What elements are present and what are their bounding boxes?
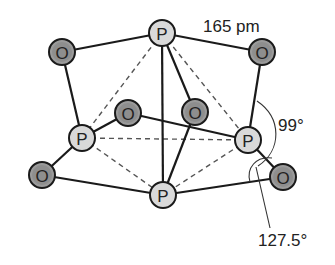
atom-label: O [55,44,68,63]
atom-label: O [35,167,48,186]
atom-p-right: P [235,127,261,153]
atom-p-bottom: P [150,182,176,208]
atom-p-left: P [69,125,95,151]
bond-line [62,33,162,52]
angle-127-label: 127.5° [258,231,307,250]
atom-label: P [157,187,168,206]
atom-p-top: P [149,20,175,46]
atom-label: O [188,104,201,123]
atom-o-br: O [270,164,296,190]
angle-99-label: 99° [278,116,304,135]
tetrahedron-edge [163,140,248,195]
atom-o-tl: O [49,39,75,65]
tetrahedron-dashed-edges [82,33,248,195]
p4o6-diagram: PPPPOOOOOO 165 pm 99° 127.5° [0,0,335,265]
atom-label: P [242,132,253,151]
atom-label: O [121,105,134,124]
bond-lines [42,33,283,195]
tetrahedron-edge [82,138,163,195]
molecule-svg: PPPPOOOOOO 165 pm 99° 127.5° [0,0,335,265]
atom-label: O [276,169,289,188]
atom-o-il: O [115,100,141,126]
atom-o-ir: O [182,99,208,125]
bond-line [162,33,163,195]
bond-line [42,175,163,195]
atom-label: P [76,130,87,149]
atom-label: P [156,25,167,44]
atom-o-bl: O [29,162,55,188]
atom-o-tr: O [249,39,275,65]
bond-length-label: 165 pm [203,17,260,36]
angle-leader-line [256,167,270,228]
atom-label: O [255,44,268,63]
bond-line [163,177,283,195]
tetrahedron-edge [82,138,248,140]
